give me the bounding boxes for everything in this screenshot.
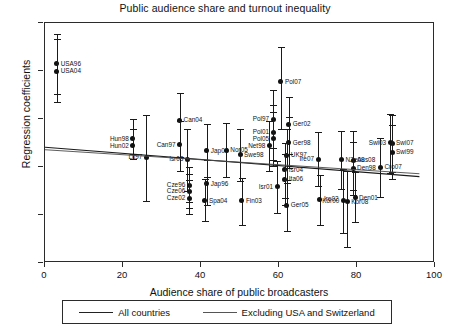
y-tick-mark	[38, 118, 43, 119]
x-tick-label: 100	[419, 269, 449, 280]
x-tick-mark	[434, 262, 435, 267]
chart-title: Public audience share and turnout inequa…	[0, 2, 450, 14]
legend-item-all-countries: All countries	[79, 307, 170, 318]
legend-item-excluding: Excluding USA and Switzerland	[203, 307, 375, 318]
chart-container: Public audience share and turnout inequa…	[0, 0, 450, 330]
x-tick-label: 40	[185, 269, 215, 280]
x-tick-mark	[278, 262, 279, 267]
y-axis-title: Regression coefficients	[20, 24, 32, 204]
legend-label-excluding: Excluding USA and Switzerland	[242, 307, 375, 318]
y-tick-mark	[38, 214, 43, 215]
x-tick-label: 80	[341, 269, 371, 280]
x-tick-label: 0	[29, 269, 59, 280]
trendlines-layer	[45, 23, 434, 262]
x-tick-label: 20	[107, 269, 137, 280]
legend-label-all: All countries	[118, 307, 170, 318]
legend-line-swatch-all	[79, 312, 113, 313]
y-tick-mark	[38, 70, 43, 71]
x-tick-mark	[200, 262, 201, 267]
x-tick-mark	[122, 262, 123, 267]
plot-area: USA96USA04Hun98Hun02Lit97Can04Can97Isr03…	[44, 22, 434, 262]
y-tick-mark	[38, 22, 43, 23]
x-tick-label: 60	[263, 269, 293, 280]
trendline	[45, 150, 419, 174]
x-axis-title: Audience share of public broadcasters	[44, 286, 434, 298]
x-tick-mark	[44, 262, 45, 267]
y-tick-mark	[38, 166, 43, 167]
x-tick-mark	[356, 262, 357, 267]
chart-legend: All countries Excluding USA and Switzerl…	[62, 300, 392, 324]
y-tick-mark	[38, 262, 43, 263]
legend-line-swatch-excluding	[203, 312, 237, 313]
